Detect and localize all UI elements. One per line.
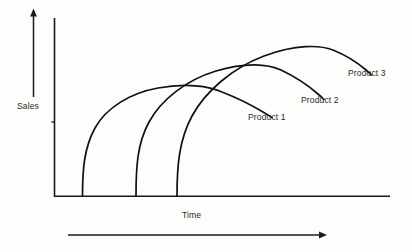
- y-axis-label: Sales: [17, 102, 39, 111]
- product-life-cycle-chart: Sales Time Product 1 Product 2 Product 3: [0, 0, 412, 252]
- product-3-label: Product 3: [348, 69, 386, 78]
- product-2-curve: [136, 65, 324, 196]
- x-axis-label: Time: [182, 211, 201, 220]
- product-1-label: Product 1: [248, 113, 286, 122]
- chart-canvas: [0, 0, 412, 252]
- product-2-label: Product 2: [301, 96, 339, 105]
- sales-direction-arrow: [30, 9, 37, 98]
- time-direction-arrow: [68, 232, 327, 239]
